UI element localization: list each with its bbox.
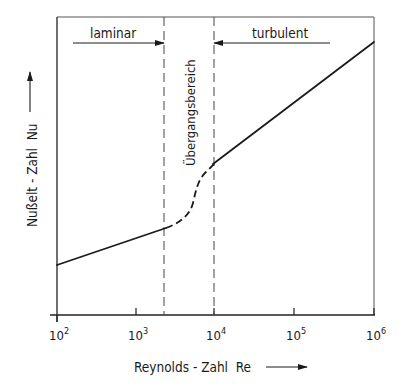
x-axis-label: Reynolds - Zahl Re: [134, 359, 251, 375]
tick-label-1e3: 103: [128, 326, 148, 343]
transition-label: Übergangsbereich: [182, 59, 198, 166]
tick-label-1e4: 104: [206, 326, 226, 343]
turbulent-curve: [213, 42, 374, 164]
turbulent-label: turbulent: [252, 25, 308, 41]
laminar-label: laminar: [90, 25, 136, 41]
transition-curve: [166, 164, 214, 228]
nusselt-reynolds-diagram: 102 103 104 105 106 Reynolds - Zahl Re N…: [0, 0, 399, 389]
plot-frame: [57, 17, 374, 322]
y-axis-label: Nußelt - Zahl Nu: [24, 124, 40, 227]
x-tick-labels: 102 103 104 105 106: [49, 326, 386, 343]
tick-label-1e2: 102: [49, 326, 69, 343]
tick-label-1e6: 106: [366, 326, 386, 343]
laminar-curve: [57, 228, 166, 265]
tick-label-1e5: 105: [286, 326, 306, 343]
